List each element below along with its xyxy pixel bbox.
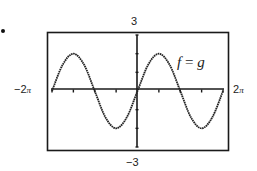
x-max-label: 2π (233, 84, 244, 95)
pi-symbol: π (239, 85, 244, 95)
equals-sign: = (181, 54, 197, 70)
graph-figure: 3 −3 −2π 2π f = g (0, 0, 257, 171)
x-min-number: −2 (14, 83, 27, 95)
plot-area (0, 0, 257, 171)
pi-symbol: π (27, 85, 32, 95)
curve-annotation: f = g (177, 55, 205, 70)
y-min-label: −3 (126, 157, 139, 168)
x-min-label: −2π (14, 84, 31, 95)
g-symbol: g (197, 54, 205, 70)
y-max-label: 3 (131, 16, 137, 27)
